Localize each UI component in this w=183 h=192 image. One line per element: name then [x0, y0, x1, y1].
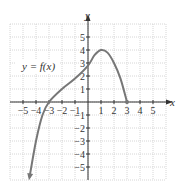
y-axis-label: y — [84, 9, 90, 21]
svg-text:3: 3 — [80, 58, 85, 69]
svg-text:4: 4 — [138, 105, 143, 116]
svg-text:−2: −2 — [74, 123, 85, 134]
svg-text:−4: −4 — [31, 105, 42, 116]
svg-text:5: 5 — [80, 32, 85, 43]
curve-arrow-icon — [27, 173, 33, 180]
svg-text:−5: −5 — [74, 162, 85, 173]
endpoint-dot — [125, 100, 129, 104]
svg-text:1: 1 — [99, 105, 104, 116]
svg-text:1: 1 — [80, 84, 85, 95]
svg-text:2: 2 — [112, 105, 117, 116]
x-axis-label: x — [169, 96, 175, 108]
svg-text:−3: −3 — [74, 136, 85, 147]
svg-text:5: 5 — [151, 105, 156, 116]
svg-text:−5: −5 — [18, 105, 29, 116]
axes — [10, 14, 173, 180]
svg-text:−1: −1 — [74, 110, 85, 121]
svg-text:−2: −2 — [57, 105, 68, 116]
svg-text:4: 4 — [80, 45, 85, 56]
function-graph: −5−4−3−2−11234554321−1−2−3−4−5 y = f(x) … — [0, 0, 183, 192]
svg-text:3: 3 — [125, 105, 130, 116]
svg-text:−4: −4 — [74, 149, 85, 160]
function-label: y = f(x) — [21, 60, 55, 73]
